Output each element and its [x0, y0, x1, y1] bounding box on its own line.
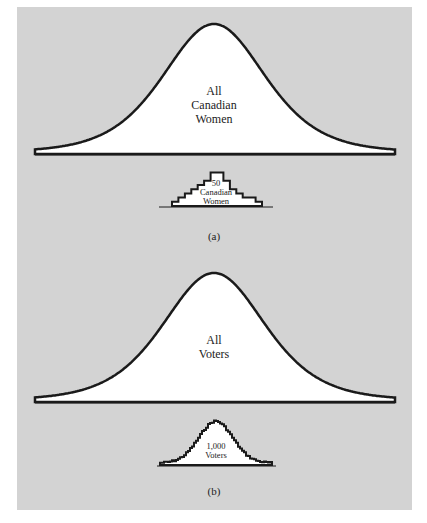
panel-a: All Canadian Women 50 Canadian Women (a): [35, 24, 395, 243]
caption-b: (b): [208, 485, 221, 498]
caption-a: (a): [208, 230, 221, 243]
sample-label-b-line2: Voters: [205, 450, 227, 460]
population-label-b-line1: All: [206, 333, 222, 347]
population-label-a-line1: All: [206, 84, 222, 98]
sample-label-a-line3: Women: [203, 196, 230, 206]
sampling-diagram: All Canadian Women 50 Canadian Women (a)…: [0, 0, 427, 523]
population-label-a-line3: Women: [195, 112, 232, 126]
population-label-a-line2: Canadian: [191, 98, 236, 112]
panel-b: All Voters 1,000 Voters (b): [35, 273, 395, 498]
population-label-b-line2: Voters: [199, 347, 230, 361]
